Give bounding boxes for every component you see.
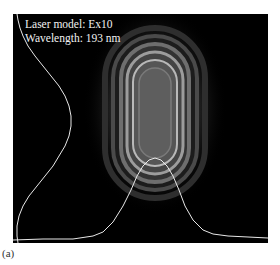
beam-profile-graphic — [13, 14, 268, 243]
laser-model-label: Laser model: Ex10 — [25, 17, 113, 31]
figure-caption: (a) — [2, 247, 14, 259]
vertical-profile-line — [17, 14, 71, 243]
beam-profile-image: Laser model: Ex10 Wavelength: 193 nm — [13, 14, 268, 243]
wavelength-label: Wavelength: 193 nm — [25, 31, 121, 45]
